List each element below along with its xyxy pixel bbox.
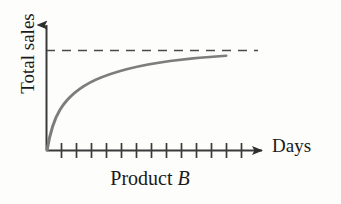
caption-product-letter: B xyxy=(178,167,190,189)
sales-curve xyxy=(47,56,226,151)
figure-caption: Product B xyxy=(0,168,300,188)
y-axis-label: Total sales xyxy=(18,0,37,109)
caption-prefix: Product xyxy=(110,167,172,189)
x-axis-label: Days xyxy=(272,136,311,155)
figure-container: Total sales Days Product B xyxy=(0,0,341,204)
